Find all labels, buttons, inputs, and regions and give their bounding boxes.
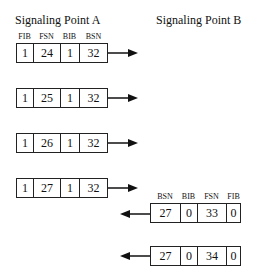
bsn-cell: 27 [151, 247, 181, 265]
bib-cell: 1 [61, 134, 80, 152]
bib-cell: 0 [181, 204, 198, 222]
bsn-cell: 27 [151, 204, 181, 222]
bsn-cell: 32 [80, 44, 107, 62]
right-arrow-icon [108, 93, 138, 103]
fib-cell: 0 [227, 204, 240, 222]
fib-cell: 1 [17, 179, 34, 197]
header-bib: BIB [60, 32, 79, 41]
bsn-cell: 32 [80, 89, 107, 107]
fsn-cell: 25 [34, 89, 61, 107]
bsn-cell: 32 [80, 134, 107, 152]
right-arrow-icon [108, 48, 138, 58]
bsn-cell: 32 [80, 179, 107, 197]
bib-cell: 0 [181, 247, 198, 265]
header-fsn: FSN [33, 32, 60, 41]
fsn-cell: 33 [198, 204, 227, 222]
header-bsn: BSN [150, 192, 180, 201]
fib-cell: 1 [17, 44, 34, 62]
signaling-point-a-title: Signaling Point A [15, 13, 100, 28]
fsn-cell: 27 [34, 179, 61, 197]
fib-cell: 0 [227, 247, 240, 265]
bib-cell: 1 [61, 179, 80, 197]
fsn-cell: 26 [34, 134, 61, 152]
fib-cell: 1 [17, 134, 34, 152]
fib-cell: 1 [17, 89, 34, 107]
header-bsn: BSN [79, 32, 108, 41]
signaling-point-b-title: Signaling Point B [156, 13, 241, 28]
header-fib: FIB [16, 32, 33, 41]
fsn-cell: 34 [198, 247, 227, 265]
left-arrow-icon [120, 251, 150, 261]
header-fsn: FSN [197, 192, 226, 201]
right-arrow-icon [108, 138, 138, 148]
header-fib: FIB [226, 192, 241, 201]
bib-cell: 1 [61, 44, 80, 62]
left-arrow-icon [120, 209, 150, 219]
right-arrow-icon [108, 183, 138, 193]
header-bib: BIB [180, 192, 197, 201]
fsn-cell: 24 [34, 44, 61, 62]
bib-cell: 1 [61, 89, 80, 107]
